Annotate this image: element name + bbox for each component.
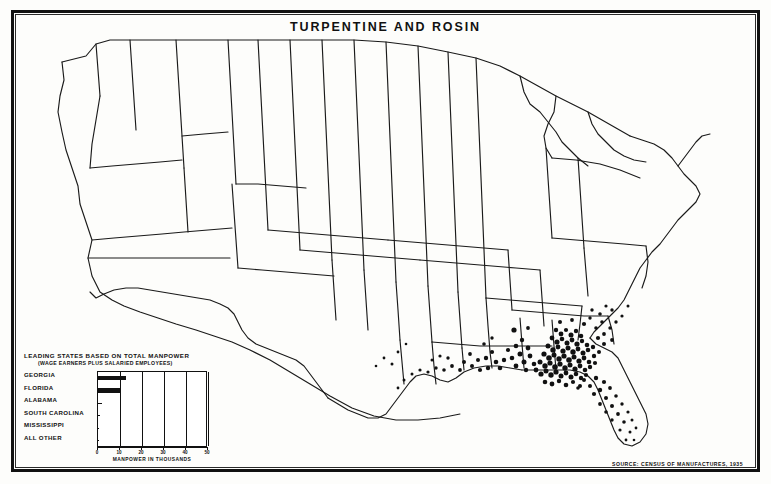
x-tick-label: 30 [160,450,165,455]
bar-label-all-other: ALL OTHER [24,432,96,445]
bar-all-other [98,440,99,441]
bar-georgia [98,376,126,381]
legend-subtitle: (WAGE EARNERS PLUS SALARIED EMPLOYEES) [24,360,214,366]
map-figure: TURPENTINE AND ROSIN [0,0,771,484]
chart-x-axis [97,447,207,448]
bar-label-georgia: GEORGIA [24,369,96,382]
chart-category-labels: GEORGIA FLORIDA ALABAMA SOUTH CAROLINA M… [24,369,96,445]
production-dots [375,304,638,441]
legend-title: LEADING STATES BASED ON TOTAL MANPOWER [24,352,214,359]
bar-label-mississippi: MISSISSIPPI [24,419,96,432]
source-credit: SOURCE: CENSUS OF MANUFACTURES, 1935 [612,461,743,467]
chart-gridline [186,372,187,446]
chart-plot-area [97,371,207,447]
bar-alabama [98,403,102,404]
chart-gridline [208,372,209,446]
chart-x-axis-title: MANPOWER IN THOUSANDS [97,457,207,462]
x-tick-label: 40 [182,450,187,455]
bar-label-florida: FLORIDA [24,382,96,395]
bar-label-south-carolina: SOUTH CAROLINA [24,407,96,420]
chart-gridline [142,372,143,446]
x-tick-label: 20 [138,450,143,455]
bar-florida [98,388,120,393]
chart-gridline [164,372,165,446]
bar-south-carolina [98,415,100,416]
bar-mississippi [98,428,99,429]
bar-label-alabama: ALABAMA [24,394,96,407]
chart-gridline [120,372,121,446]
x-tick-label: 50 [204,450,209,455]
x-tick-label: 0 [96,450,99,455]
legend-panel: LEADING STATES BASED ON TOTAL MANPOWER (… [24,352,214,455]
manpower-bar-chart: GEORGIA FLORIDA ALABAMA SOUTH CAROLINA M… [24,369,210,455]
x-tick-label: 10 [116,450,121,455]
